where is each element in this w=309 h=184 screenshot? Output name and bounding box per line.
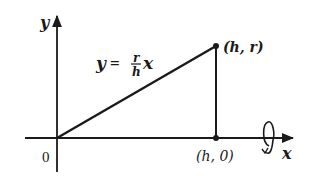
equation-equals: = (110, 54, 120, 73)
point-h-r-label: (h, r) (223, 39, 264, 55)
equation-numerator: r (133, 51, 141, 65)
point-h-r (213, 43, 219, 49)
origin-label: 0 (42, 149, 50, 165)
equation-lhs: y (95, 53, 107, 73)
equation-denominator: h (132, 65, 141, 79)
x-axis-label: x (281, 144, 292, 163)
point-h-0-label: (h, 0) (196, 148, 234, 164)
y-axis-label: y (39, 13, 51, 32)
point-h-0 (213, 135, 219, 141)
equation-variable: x (142, 53, 154, 73)
line-equation: y = r h x (95, 51, 154, 79)
cone-volume-diagram: y x 0 y = r h x (h, r) (h, 0) (0, 0, 309, 184)
